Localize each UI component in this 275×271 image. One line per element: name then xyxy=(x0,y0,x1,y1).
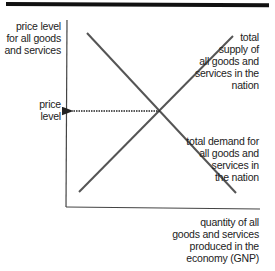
x-axis-label: quantity of all goods and services produ… xyxy=(172,216,259,264)
y-axis xyxy=(66,20,67,207)
y-axis-label: price level for all goods and services xyxy=(4,20,61,56)
price-level-label: price level xyxy=(39,98,61,122)
x-axis xyxy=(66,207,260,209)
supply-curve-label: total supply of all goods and services i… xyxy=(195,31,259,91)
demand-curve-label: total demand for all goods and services … xyxy=(186,135,259,183)
